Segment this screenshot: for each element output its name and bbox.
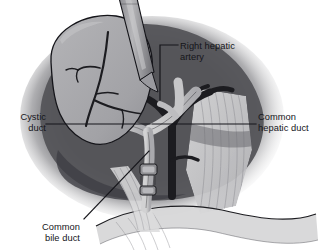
- label-common-hepatic-duct: Common hepatic duct: [258, 112, 309, 134]
- fibrous-tissue: [184, 86, 254, 214]
- label-right-hepatic-artery: Right hepatic artery: [180, 41, 235, 63]
- anatomy-illustration-figure: Right hepatic artery Cystic duct Common …: [0, 0, 321, 251]
- duodenum: [96, 206, 318, 250]
- label-common-bile-duct: Common bile duct: [8, 222, 80, 244]
- label-cystic-duct: Cystic duct: [2, 112, 46, 134]
